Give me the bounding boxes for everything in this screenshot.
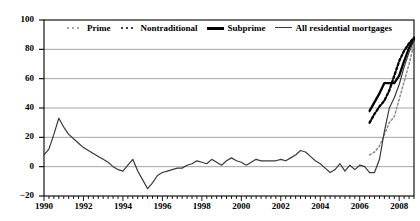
x-axis-tick-label: 1998	[182, 202, 222, 211]
x-axis-tick-label: 1990	[24, 202, 64, 211]
x-axis-tick-label: 2006	[340, 202, 380, 211]
x-axis-tick-label: 2008	[379, 202, 419, 211]
x-axis-tick-label: 1996	[142, 202, 182, 211]
y-axis-tick-label: 20	[4, 132, 34, 141]
plot-area	[0, 0, 420, 221]
y-axis-tick-label: 60	[4, 74, 34, 83]
y-axis-tick-label: 100	[4, 15, 34, 24]
x-axis-tick-label: 1994	[103, 202, 143, 211]
x-axis-tick-label: 2000	[221, 202, 261, 211]
x-axis-tick-label: 1992	[63, 202, 103, 211]
y-axis-tick-label: 0	[4, 162, 34, 171]
x-axis-tick-label: 2002	[261, 202, 301, 211]
chart-container: Prime Nontraditional Subprime All reside…	[0, 0, 420, 221]
y-axis-tick-label: −20	[4, 191, 34, 200]
y-axis-tick-label: 40	[4, 103, 34, 112]
y-axis-tick-label: 80	[4, 44, 34, 53]
x-axis-tick-label: 2004	[300, 202, 340, 211]
series-line-subprime	[370, 39, 414, 111]
